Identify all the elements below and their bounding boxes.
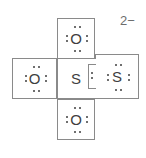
lewis-slot-right[interactable]: S xyxy=(95,54,139,99)
lone-pair-dot xyxy=(91,77,93,79)
lone-pair-dot xyxy=(45,75,47,77)
lewis-structure-canvas: O O S S xyxy=(0,0,146,158)
lone-pair-dot xyxy=(79,50,81,52)
notch-edge-top xyxy=(88,64,96,65)
lone-pair-dot xyxy=(33,90,35,92)
lewis-slot-left[interactable]: O xyxy=(12,58,57,99)
lone-pair-dot xyxy=(74,50,76,52)
atom-symbol-bottom: O xyxy=(58,100,94,139)
lone-pair-dot xyxy=(86,116,88,118)
lone-pair-dot xyxy=(128,79,130,81)
lone-pair-dot xyxy=(79,131,81,133)
lone-pair-dot xyxy=(91,72,93,74)
lone-pair-dot xyxy=(33,66,35,68)
lone-pair-dot xyxy=(120,64,122,66)
lone-pair-dot xyxy=(74,26,76,28)
lone-pair-dot xyxy=(74,107,76,109)
lone-pair-dot xyxy=(74,131,76,133)
overall-charge-label: 2− xyxy=(120,13,135,28)
lone-pair-dot xyxy=(79,26,81,28)
lone-pair-dot xyxy=(45,80,47,82)
lewis-slot-top[interactable]: O xyxy=(57,18,95,59)
atom-symbol-top: O xyxy=(58,19,94,58)
lone-pair-dot xyxy=(86,40,88,42)
lone-pair-dot xyxy=(79,107,81,109)
lone-pair-dot xyxy=(128,74,130,76)
lone-pair-dot xyxy=(86,35,88,37)
lone-pair-dot xyxy=(38,66,40,68)
lone-pair-dot xyxy=(66,121,68,123)
notch-edge-bottom xyxy=(88,88,96,89)
lone-pair-dot xyxy=(86,121,88,123)
lone-pair-dot xyxy=(38,90,40,92)
lone-pair-dot xyxy=(66,35,68,37)
notch-edge-vertical xyxy=(88,64,89,89)
lone-pair-dot xyxy=(66,116,68,118)
atom-symbol-right: S xyxy=(96,55,138,98)
lewis-slot-bottom[interactable]: O xyxy=(57,99,95,140)
lone-pair-dot xyxy=(66,40,68,42)
lone-pair-dot xyxy=(107,74,109,76)
lone-pair-dot xyxy=(115,89,117,91)
atom-symbol-left: O xyxy=(13,59,56,98)
lone-pair-dot xyxy=(107,79,109,81)
lone-pair-dot xyxy=(25,80,27,82)
lone-pair-dot xyxy=(25,75,27,77)
lone-pair-dot xyxy=(120,89,122,91)
lone-pair-dot xyxy=(115,64,117,66)
